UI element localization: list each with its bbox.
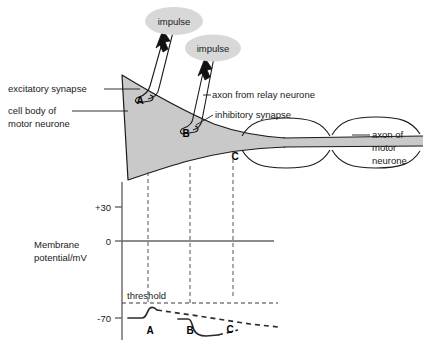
label-cell-body-group: cell body of motor neurone <box>8 105 128 129</box>
marker-b-graph: B <box>186 325 193 336</box>
label-axon-of-line1: axon of <box>372 129 404 140</box>
trace-ipsp-dip <box>178 319 218 336</box>
myelin-segment-upper-1 <box>242 118 330 136</box>
graph-axes: +30 0 -70 Membrane potential/mV <box>34 182 274 340</box>
impulse-bubble-1: impulse <box>145 7 203 35</box>
myelin-segment-lower-1 <box>242 150 330 168</box>
marker-b-diagram: B <box>182 128 189 139</box>
trace-epsp-decay <box>157 310 278 327</box>
label-axon-from-relay-group: axon from relay neurone <box>203 89 315 100</box>
marker-c-diagram: C <box>231 151 238 162</box>
ytick-label-zero: 0 <box>106 236 111 247</box>
marker-a-diagram: A <box>136 95 143 106</box>
impulse-bubble-2: impulse <box>185 35 241 62</box>
label-excitatory-synapse-group: excitatory synapse <box>8 83 140 94</box>
y-axis-label-line2: potential/mV <box>34 252 87 263</box>
trace-epsp-rise <box>128 308 157 318</box>
threshold-group: threshold <box>122 290 278 303</box>
label-axon-from-relay: axon from relay neurone <box>212 89 315 100</box>
y-axis-label-line1: Membrane <box>34 239 79 250</box>
ytick-label-plus30: +30 <box>95 202 111 213</box>
label-cell-body-line2: motor neurone <box>8 118 70 129</box>
label-axon-of-motor-neurone-group: axon of motor neurone <box>352 129 407 166</box>
impulse-bubble-2-label: impulse <box>197 43 230 54</box>
label-inhibitory-synapse: inhibitory synapse <box>215 109 291 120</box>
neurone-synapse-figure: impulse impulse excitatory synapse cell … <box>0 0 423 345</box>
label-excitatory-synapse: excitatory synapse <box>8 83 87 94</box>
marker-c-graph: C <box>226 324 233 335</box>
label-axon-of-line2: motor <box>372 142 396 153</box>
label-cell-body-line1: cell body of <box>8 105 56 116</box>
marker-a-graph: A <box>146 325 153 336</box>
ytick-label-minus70: -70 <box>97 313 111 324</box>
threshold-label: threshold <box>127 290 166 301</box>
impulse-bubble-1-label: impulse <box>158 16 191 27</box>
label-axon-of-line3: neurone <box>372 155 407 166</box>
